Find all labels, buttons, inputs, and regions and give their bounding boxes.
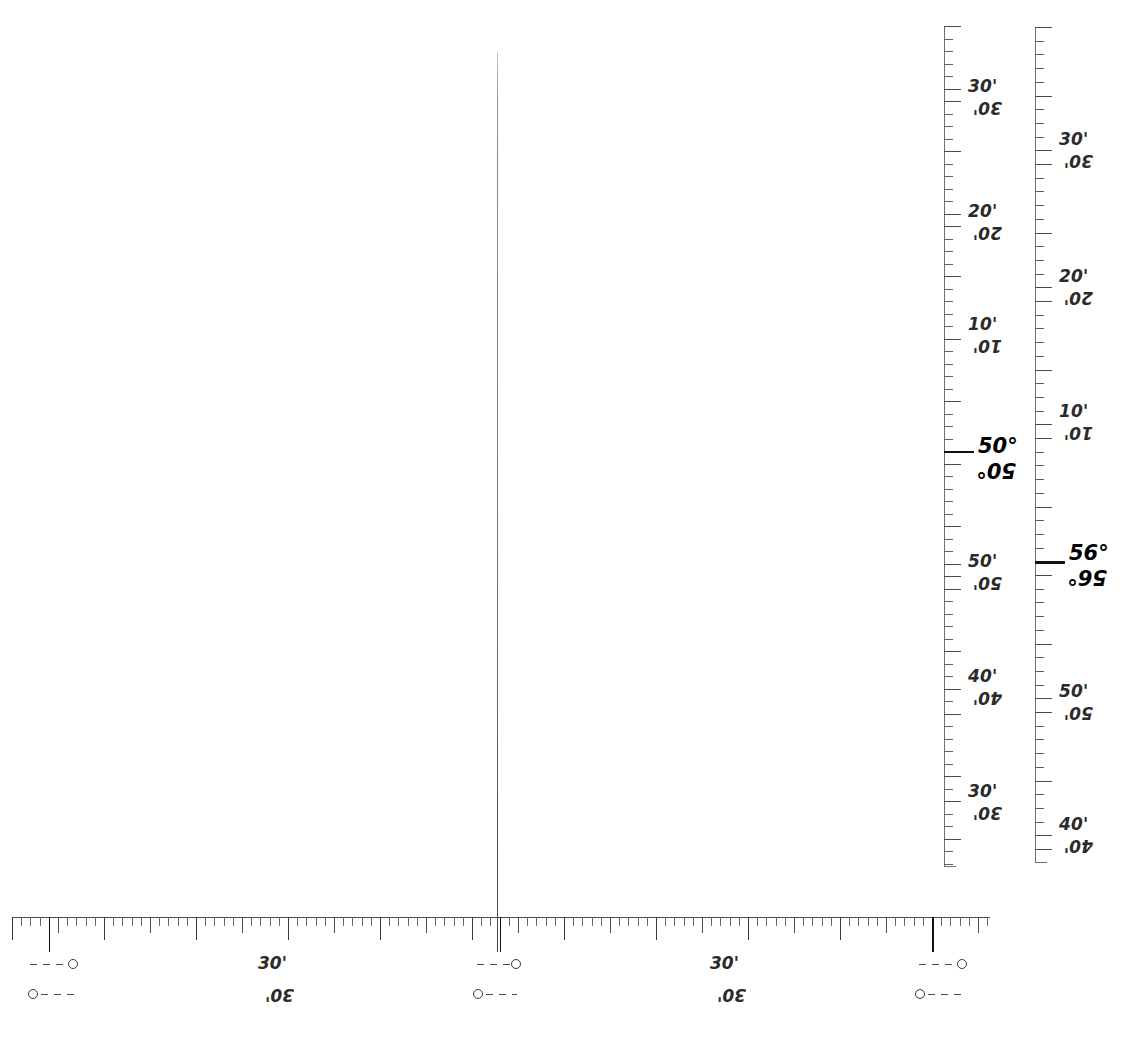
left-latitude-scale-label: 10' — [968, 314, 997, 334]
right-latitude-scale-tick — [1035, 835, 1052, 836]
left-latitude-scale-label: 20' — [968, 201, 997, 221]
bottom-scale-tick — [343, 917, 344, 926]
bottom-scale-tick — [923, 917, 924, 926]
left-latitude-scale-tick — [944, 589, 961, 590]
right-latitude-scale-tick — [1035, 246, 1044, 247]
bottom-scale-tick — [325, 917, 326, 926]
left-latitude-scale-tick — [944, 476, 953, 477]
right-latitude-scale-tick — [1035, 137, 1044, 138]
left-latitude-scale-tick — [944, 739, 953, 740]
bottom-scale-tick — [67, 917, 68, 926]
bottom-scale-tick — [730, 917, 731, 926]
bottom-scale-tick — [362, 917, 363, 926]
left-latitude-scale-tick — [944, 576, 961, 577]
left-latitude-scale-label-mirrored: 30' — [973, 803, 1002, 823]
bottom-scale-label-mirrored: 30' — [265, 985, 294, 1005]
right-latitude-scale-tick — [1035, 520, 1044, 521]
left-latitude-scale-tick — [944, 851, 953, 852]
bottom-scale-tick — [196, 917, 197, 940]
bottom-scale-tick — [776, 917, 777, 926]
right-latitude-scale-tick — [1035, 685, 1044, 686]
central-meridian-line — [497, 52, 498, 952]
bottom-scale-tick — [969, 917, 970, 926]
bottom-scale-tick — [398, 917, 399, 926]
left-latitude-scale-tick — [944, 414, 953, 415]
bottom-scale-tick — [187, 917, 188, 926]
left-latitude-scale-tick — [944, 751, 953, 752]
right-latitude-scale-foot — [1035, 862, 1047, 863]
right-latitude-scale-tick — [1035, 328, 1044, 329]
left-latitude-scale-label-mirrored: 30' — [973, 98, 1002, 118]
bottom-scale-tick — [628, 917, 629, 926]
right-latitude-scale-tick — [1035, 452, 1044, 453]
bottom-scale-tick — [656, 917, 657, 940]
right-latitude-scale-tick — [1035, 424, 1052, 425]
left-latitude-scale-tick — [944, 801, 961, 802]
bottom-scale-tick — [104, 917, 105, 940]
bottom-scale-tick — [288, 917, 289, 940]
bottom-scale-tick — [803, 917, 804, 926]
left-latitude-scale-tick — [944, 614, 953, 615]
right-latitude-scale-label-mirrored: 56° — [1067, 565, 1107, 589]
bottom-scale-tick — [665, 917, 666, 926]
bottom-scale-tick — [638, 917, 639, 926]
bottom-scale-tick — [242, 917, 243, 933]
bottom-scale-tick — [205, 917, 206, 926]
right-latitude-scale-tick — [1035, 616, 1044, 617]
left-latitude-scale-label: 40' — [968, 666, 997, 686]
right-latitude-scale-label: 50' — [1059, 681, 1088, 701]
right-latitude-scale-tick — [1035, 356, 1044, 357]
tie-mark-2-upper-dash — [477, 964, 510, 965]
right-latitude-scale-tick — [1035, 287, 1052, 288]
right-latitude-scale-tick — [1035, 822, 1044, 823]
left-latitude-scale-tick — [944, 301, 953, 302]
right-latitude-scale-tick — [1035, 589, 1044, 590]
bottom-scale-tick — [904, 917, 905, 926]
left-latitude-scale-tick — [944, 464, 961, 465]
bottom-scale-tick — [454, 917, 455, 926]
right-latitude-scale-tick — [1035, 191, 1044, 192]
bottom-scale-tick — [822, 917, 823, 926]
bottom-scale-tick — [546, 917, 547, 926]
right-latitude-scale-tick — [1035, 561, 1065, 563]
bottom-scale-tick — [150, 917, 151, 933]
bottom-scale-tick — [122, 917, 123, 926]
bottom-scale-tick — [168, 917, 169, 926]
bottom-scale-tick — [270, 917, 271, 926]
left-latitude-scale-tick — [944, 101, 961, 102]
bottom-scale-tick — [141, 917, 142, 926]
bottom-scale-tick — [739, 917, 740, 926]
bottom-scale-tick — [812, 917, 813, 926]
bottom-scale-tick — [426, 917, 427, 933]
bottom-scale-tick — [49, 917, 51, 952]
right-latitude-scale-tick — [1035, 438, 1052, 439]
right-latitude-scale-tick — [1035, 233, 1052, 234]
left-latitude-scale-tick — [944, 151, 961, 152]
right-latitude-scale-tick — [1035, 726, 1044, 727]
tie-mark-3-upper-dash — [919, 964, 956, 965]
left-latitude-scale-tick — [944, 701, 953, 702]
bottom-scale-tick — [58, 917, 59, 933]
bottom-scale-tick — [702, 917, 703, 933]
left-latitude-scale-tick — [944, 376, 953, 377]
right-latitude-scale-tick — [1035, 808, 1044, 809]
left-latitude-scale-foot — [944, 866, 956, 867]
left-latitude-scale-tick — [944, 51, 953, 52]
left-latitude-scale-tick — [944, 164, 953, 165]
bottom-scale-tick — [40, 917, 41, 926]
right-latitude-scale-label-mirrored: 10' — [1064, 423, 1093, 443]
right-latitude-scale-tick — [1035, 575, 1052, 576]
right-latitude-scale-tick — [1035, 548, 1044, 549]
right-latitude-scale-tick — [1035, 164, 1052, 165]
left-latitude-scale-tick — [944, 226, 961, 227]
bottom-scale-label-mirrored: 30' — [717, 985, 746, 1005]
bottom-scale-tick — [610, 917, 611, 933]
map-margin-sheet: 30'30'20'20'10'10'50°50°50'50'40'40'30'3… — [0, 0, 1130, 1041]
left-latitude-scale-label-mirrored: 50° — [976, 458, 1016, 482]
bottom-scale-tick — [233, 917, 234, 926]
right-latitude-scale-tick — [1035, 274, 1044, 275]
right-latitude-scale-tick — [1035, 493, 1044, 494]
right-latitude-scale-tick — [1035, 54, 1044, 55]
left-latitude-scale-tick — [944, 714, 961, 715]
bottom-scale-tick — [408, 917, 409, 926]
